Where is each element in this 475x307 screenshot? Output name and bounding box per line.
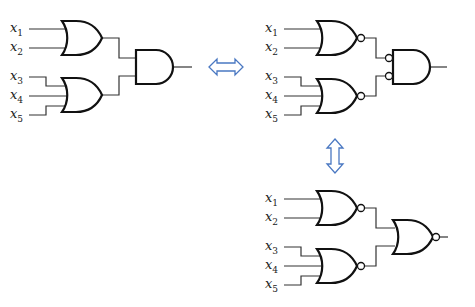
input-label-x3: x3 (265, 68, 278, 86)
input-label-x3: x3 (10, 68, 23, 86)
nor-gate-2 (317, 79, 357, 113)
input-labels: x1 x2 x3 x4 x5 (265, 20, 278, 124)
inversion-bubble (386, 55, 393, 62)
or-gate-1 (62, 21, 102, 55)
nor-gate-1 (317, 191, 357, 225)
input-label-x3: x3 (265, 238, 278, 256)
inversion-bubble (358, 35, 365, 42)
input-label-x1: x1 (10, 20, 23, 38)
input-label-x2: x2 (265, 39, 278, 57)
input-label-x5: x5 (265, 106, 278, 124)
nor-gate-1 (317, 21, 357, 55)
inversion-bubble (433, 234, 440, 241)
inversion-bubble (358, 205, 365, 212)
horizontal-equivalence-arrow-icon (209, 59, 243, 75)
logic-equivalence-diagram: x1 x2 x3 x4 x5 x1 x2 x3 x4 x5 (0, 0, 475, 307)
input-label-x4: x4 (265, 87, 278, 105)
input-labels: x1 x2 x3 x4 x5 (10, 20, 23, 124)
nor-gate-2 (317, 249, 357, 283)
input-label-x1: x1 (265, 190, 278, 208)
inversion-bubble (358, 93, 365, 100)
input-label-x4: x4 (10, 87, 23, 105)
inversion-bubble (386, 73, 393, 80)
or-and-circuit: x1 x2 x3 x4 x5 (10, 20, 192, 124)
vertical-equivalence-arrow-icon (327, 139, 343, 173)
and-gate (136, 50, 173, 84)
input-label-x5: x5 (265, 276, 278, 294)
nor-gate-output (393, 220, 433, 254)
input-label-x4: x4 (265, 257, 278, 275)
input-label-x2: x2 (265, 209, 278, 227)
input-label-x1: x1 (265, 20, 278, 38)
and-gate-inverted-inputs (393, 50, 430, 84)
inversion-bubble (358, 263, 365, 270)
or-gate-2 (62, 78, 102, 112)
input-label-x5: x5 (10, 106, 23, 124)
nor-nor-circuit: x1 x2 x3 x4 x5 (265, 190, 448, 294)
input-label-x2: x2 (10, 39, 23, 57)
input-labels: x1 x2 x3 x4 x5 (265, 190, 278, 294)
nor-and-inverted-circuit: x1 x2 x3 x4 x5 (265, 20, 447, 124)
